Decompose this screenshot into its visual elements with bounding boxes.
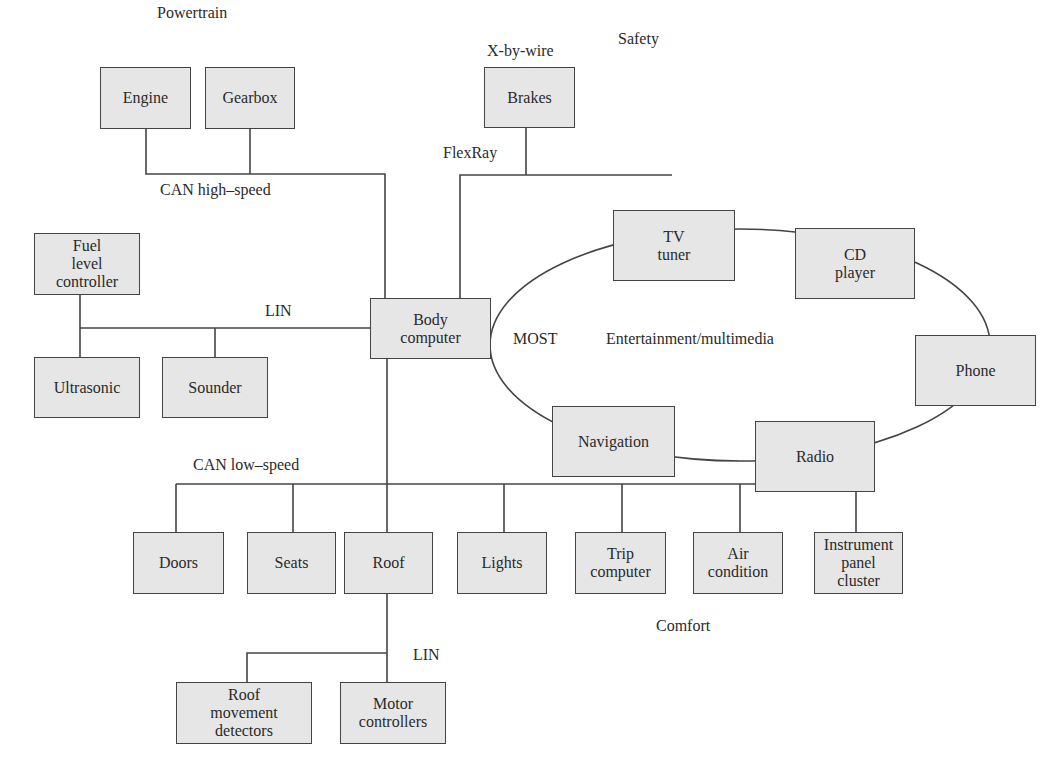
node-tv-tuner: TV tuner [613,210,735,281]
bus-label-can-low: CAN low–speed [193,456,299,474]
node-radio: Radio [755,421,875,492]
domain-label-xbywire: X-by-wire [487,42,554,60]
node-lights: Lights [457,532,547,594]
node-body-computer: Body computer [370,298,491,359]
vehicle-network-diagram: Powertrain Safety X-by-wire Entertainmen… [0,0,1058,777]
domain-label-safety: Safety [618,30,659,48]
node-phone: Phone [915,335,1036,406]
node-doors: Doors [133,532,224,594]
bus-label-flexray: FlexRay [443,144,497,162]
node-navigation: Navigation [552,406,675,477]
domain-label-comfort: Comfort [656,617,710,635]
bus-label-lin-left: LIN [265,302,292,320]
bus-label-lin-roof: LIN [413,646,440,664]
domain-label-entertainment: Entertainment/multimedia [606,330,774,348]
node-fuel-level-controller: Fuel level controller [34,233,140,295]
node-sounder: Sounder [162,357,268,418]
node-roof: Roof [344,532,433,594]
node-air-condition: Air condition [693,532,783,594]
node-ultrasonic: Ultrasonic [34,357,140,418]
domain-label-powertrain: Powertrain [157,4,227,22]
node-instrument-panel-cluster: Instrument panel cluster [814,532,903,594]
node-engine: Engine [100,67,191,129]
node-cd-player: CD player [795,228,915,299]
node-seats: Seats [247,532,336,594]
node-gearbox: Gearbox [205,67,295,129]
bus-label-most: MOST [513,330,557,348]
node-brakes: Brakes [484,67,575,128]
bus-label-can-high: CAN high–speed [160,181,271,199]
node-trip-computer: Trip computer [575,532,666,594]
node-roof-movement-detectors: Roof movement detectors [176,682,312,744]
node-motor-controllers: Motor controllers [340,682,446,744]
